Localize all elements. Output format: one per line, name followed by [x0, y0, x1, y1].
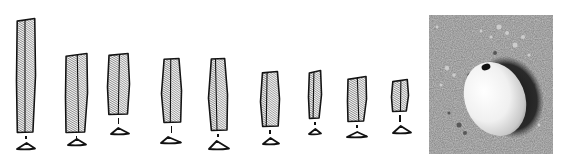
- bead-photograph: [429, 15, 553, 154]
- bladelet-drawing-1: [16, 18, 36, 133]
- cross-section-3: [110, 127, 130, 135]
- section-marker-8: [356, 125, 358, 128]
- cross-section-4: [160, 136, 182, 144]
- bladelet-drawing-8: [347, 76, 367, 122]
- bladelet-drawing-2: [65, 53, 88, 133]
- bladelet-drawing-7: [308, 70, 322, 119]
- cross-section-1: [16, 142, 36, 150]
- cross-section-5: [208, 140, 230, 150]
- bladelet-drawing-3: [107, 53, 130, 115]
- cross-section-8: [346, 131, 368, 138]
- bladelet-drawing-4: [161, 58, 182, 123]
- cross-section-2: [67, 138, 87, 146]
- cross-section-9: [392, 125, 412, 134]
- cross-section-6: [262, 137, 280, 145]
- bladelet-drawing-6: [260, 71, 280, 127]
- section-marker-1: [25, 136, 27, 139]
- bead-photo-image: [429, 15, 553, 154]
- section-marker-5: [217, 134, 219, 137]
- section-marker-9: [399, 115, 401, 122]
- section-marker-4: [171, 126, 173, 133]
- section-marker-6: [269, 130, 271, 134]
- bladelet-drawing-9: [391, 79, 409, 112]
- section-marker-3: [118, 118, 120, 124]
- cross-section-7: [308, 128, 322, 135]
- bladelet-drawing-5: [208, 58, 228, 131]
- section-marker-7: [314, 122, 316, 125]
